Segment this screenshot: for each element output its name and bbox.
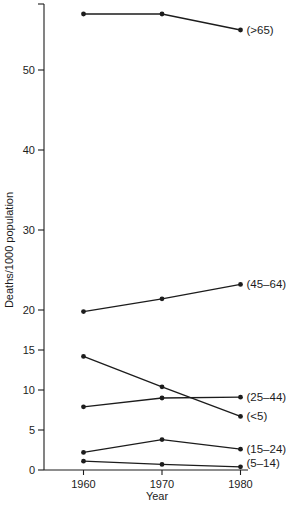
y-tick-label: 0 — [29, 464, 35, 476]
series-label: (45–64) — [247, 278, 287, 290]
data-point — [238, 464, 243, 469]
data-point — [160, 437, 165, 442]
data-point — [238, 395, 243, 400]
x-axis-title: Year — [146, 490, 169, 502]
data-point — [160, 12, 165, 17]
data-point — [160, 396, 165, 401]
series-label: (>65) — [247, 24, 274, 36]
y-tick-label: 30 — [23, 224, 35, 236]
data-point — [81, 354, 86, 359]
y-axis-title: Deaths/1000 population — [3, 192, 15, 308]
y-tick-label: 20 — [23, 304, 35, 316]
data-point — [160, 462, 165, 467]
data-point — [81, 450, 86, 455]
y-tick-label: 5 — [29, 424, 35, 436]
x-tick-label: 1970 — [150, 478, 174, 490]
series-label: (15–24) — [247, 443, 287, 455]
x-tick-label: 1960 — [71, 478, 95, 490]
x-tick-label: 1980 — [228, 478, 252, 490]
data-point — [81, 12, 86, 17]
mortality-rate-line-chart: 05101520304050196019701980YearDeaths/100… — [0, 0, 291, 512]
y-tick-label: 15 — [23, 344, 35, 356]
series-label: (25–44) — [247, 391, 287, 403]
data-point — [238, 28, 243, 33]
data-point — [238, 282, 243, 287]
y-tick-label: 10 — [23, 384, 35, 396]
series-label: (5–14) — [247, 457, 280, 469]
data-point — [160, 296, 165, 301]
data-point — [238, 414, 243, 419]
data-point — [81, 459, 86, 464]
data-point — [81, 309, 86, 314]
y-tick-label: 50 — [23, 64, 35, 76]
chart-canvas: 05101520304050196019701980YearDeaths/100… — [0, 0, 291, 512]
y-tick-label: 40 — [23, 144, 35, 156]
data-point — [160, 384, 165, 389]
data-point — [81, 404, 86, 409]
series-label: (<5) — [247, 410, 268, 422]
data-point — [238, 447, 243, 452]
